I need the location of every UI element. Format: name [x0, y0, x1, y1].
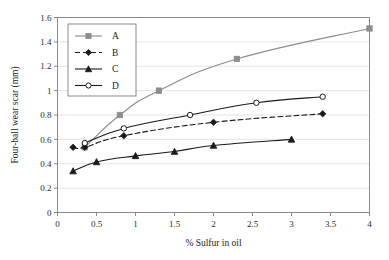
x-tick-label: 1.5 [169, 219, 181, 229]
x-tick-label: 4 [367, 219, 372, 229]
x-tick-label: 2.5 [247, 219, 259, 229]
marker-diamond [70, 144, 76, 150]
chart-figure: 00.20.40.60.811.21.41.6 00.511.522.533.5… [0, 0, 389, 260]
marker-square [156, 88, 161, 93]
legend-label-a: A [112, 31, 119, 41]
marker-diamond [121, 133, 127, 139]
marker-diamond [320, 111, 326, 117]
x-tick-label: 0.5 [91, 219, 103, 229]
legend-label-c: C [112, 64, 118, 74]
marker-circle [320, 94, 325, 99]
series-d [82, 94, 325, 146]
y-tick-label: 0 [47, 208, 52, 218]
y-axis-tick-labels: 00.20.40.60.811.21.41.6 [40, 13, 52, 218]
marker-square [86, 33, 91, 38]
x-tick-label: 1 [133, 219, 138, 229]
x-tick-label: 3 [289, 219, 294, 229]
marker-circle [121, 126, 126, 131]
chart-legend: ABCD [68, 24, 136, 96]
marker-circle [86, 83, 91, 88]
y-tick-label: 0.8 [40, 110, 52, 120]
legend-label-d: D [112, 81, 119, 91]
series-line-c [73, 139, 291, 171]
marker-square [367, 26, 372, 31]
x-tick-label: 2 [211, 219, 216, 229]
x-tick-label: 0 [55, 219, 60, 229]
marker-circle [187, 112, 192, 117]
x-tick-label: 3.5 [325, 219, 337, 229]
wear-scar-line-chart: 00.20.40.60.811.21.41.6 00.511.522.533.5… [0, 0, 389, 260]
x-axis-tick-labels: 00.511.522.533.54 [55, 219, 372, 229]
marker-diamond [210, 119, 216, 125]
marker-triangle [70, 168, 77, 174]
y-tick-label: 1 [47, 86, 52, 96]
series-line-b [73, 114, 323, 149]
series-b [70, 111, 326, 151]
marker-circle [254, 100, 259, 105]
x-axis-title: % Sulfur in oil [185, 238, 242, 248]
marker-square [234, 56, 239, 61]
series-c [70, 136, 295, 174]
legend-label-b: B [112, 48, 118, 58]
y-tick-label: 0.2 [40, 183, 51, 193]
y-tick-label: 0.4 [40, 159, 52, 169]
marker-circle [82, 140, 87, 145]
y-tick-label: 1.4 [40, 37, 52, 47]
y-axis-title: Four-ball wear scar (mm) [10, 66, 21, 163]
y-tick-label: 0.6 [40, 135, 52, 145]
y-tick-label: 1.6 [40, 13, 52, 23]
marker-square [117, 112, 122, 117]
y-tick-label: 1.2 [40, 61, 51, 71]
